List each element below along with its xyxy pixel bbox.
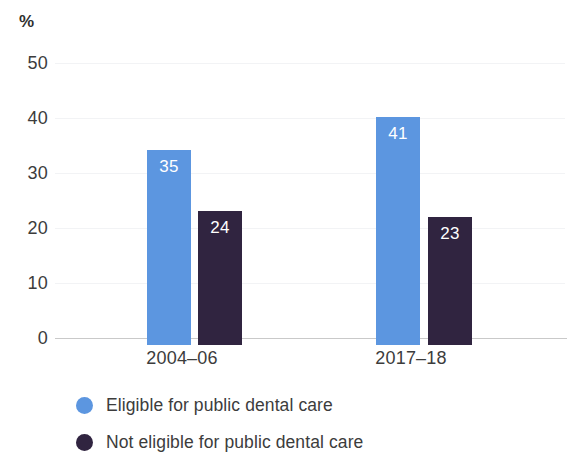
y-tick-40: 40	[4, 108, 48, 129]
bar-2017-18-eligible: 41	[376, 117, 420, 345]
y-tick-30: 30	[4, 163, 48, 184]
bar-value-label: 41	[376, 124, 420, 144]
y-axis-tick-labels: 50 40 30 20 10 0	[0, 55, 48, 345]
x-tick-label-2017-18: 2017–18	[351, 348, 471, 369]
gridline-40	[55, 118, 565, 119]
x-tick-label-2004-06: 2004–06	[122, 348, 242, 369]
y-tick-20: 20	[4, 218, 48, 239]
legend-item-label: Not eligible for public dental care	[106, 432, 363, 453]
gridline-10	[55, 283, 565, 284]
bar-2004-06-not-eligible: 24	[198, 211, 242, 345]
bar-value-label: 35	[147, 157, 191, 177]
bar-2004-06-eligible: 35	[147, 150, 191, 345]
y-tick-0: 0	[4, 328, 48, 349]
x-axis-baseline	[55, 338, 567, 339]
legend-color-swatch-icon	[76, 434, 93, 451]
gridline-50	[55, 63, 565, 64]
bar-value-label: 24	[198, 218, 242, 238]
gridline-20	[55, 228, 565, 229]
legend-color-swatch-icon	[76, 397, 93, 414]
y-tick-50: 50	[4, 53, 48, 74]
legend-item-eligible: Eligible for public dental care	[76, 390, 363, 420]
legend: Eligible for public dental care Not elig…	[76, 390, 363, 455]
y-axis-unit-label: %	[19, 12, 34, 32]
gridline-30	[55, 173, 565, 174]
bar-chart: % 50 40 30 20 10 0 35 24 41 23 2004–06 2…	[0, 0, 575, 455]
legend-item-label: Eligible for public dental care	[106, 395, 333, 416]
plot-area: 35 24 41 23	[55, 55, 565, 345]
legend-item-not-eligible: Not eligible for public dental care	[76, 427, 363, 455]
bar-2017-18-not-eligible: 23	[428, 217, 472, 345]
y-tick-10: 10	[4, 273, 48, 294]
bar-value-label: 23	[428, 224, 472, 244]
